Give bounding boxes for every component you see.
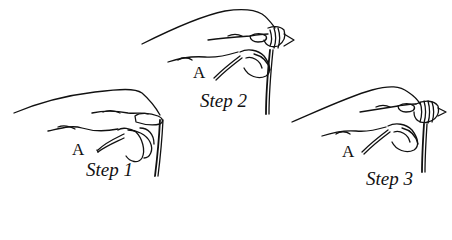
step1-label: Step 1	[86, 160, 133, 179]
step2-label: Step 2	[200, 91, 247, 110]
step1-point-a-label: A	[72, 141, 84, 158]
step3-label: Step 3	[366, 169, 413, 188]
step3-point-a-label: A	[342, 143, 354, 160]
step3-hand-drawing	[292, 87, 446, 172]
step2-point-a-label: A	[193, 64, 205, 81]
